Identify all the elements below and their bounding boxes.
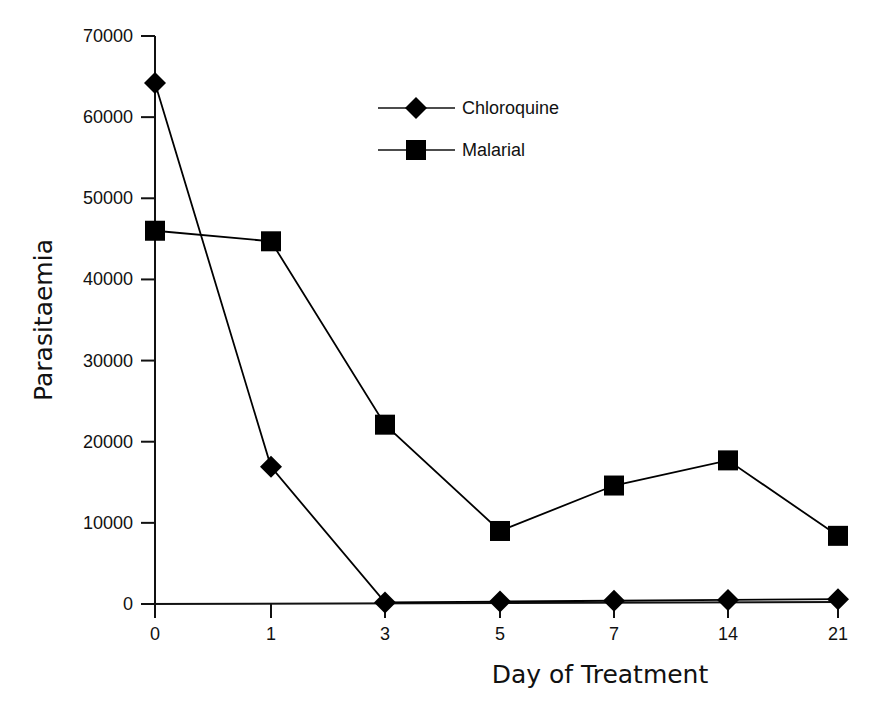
legend-label: Chloroquine xyxy=(462,98,559,118)
x-tick-label: 21 xyxy=(828,624,848,644)
diamond-marker xyxy=(374,591,396,613)
square-marker xyxy=(261,231,281,251)
legend-label: Malarial xyxy=(462,140,525,160)
diamond-marker xyxy=(405,97,427,119)
series-malarial xyxy=(145,221,848,546)
x-tick-label: 0 xyxy=(150,624,160,644)
y-tick-label: 60000 xyxy=(83,107,133,127)
square-marker xyxy=(406,140,426,160)
diamond-marker xyxy=(717,589,739,611)
square-marker xyxy=(490,521,510,541)
diamond-marker xyxy=(489,591,511,613)
square-marker xyxy=(375,415,395,435)
legend: ChloroquineMalarial xyxy=(378,97,559,160)
x-axis-title: Day of Treatment xyxy=(492,660,709,689)
diamond-marker xyxy=(827,588,849,610)
legend-item-chloroquine: Chloroquine xyxy=(378,97,559,119)
square-marker xyxy=(718,450,738,470)
y-tick-label: 0 xyxy=(123,594,133,614)
y-tick-label: 30000 xyxy=(83,351,133,371)
x-tick-label: 3 xyxy=(380,624,390,644)
x-tick-label: 5 xyxy=(495,624,505,644)
legend-item-malarial: Malarial xyxy=(378,140,525,160)
line-chart: 010000200003000040000500006000070000 013… xyxy=(0,0,879,722)
diamond-marker xyxy=(603,590,625,612)
square-marker xyxy=(828,526,848,546)
y-axis-title: Parasitaemia xyxy=(29,239,58,401)
y-tick-label: 10000 xyxy=(83,513,133,533)
square-marker xyxy=(145,221,165,241)
x-tick-label: 14 xyxy=(718,624,738,644)
x-axis: 013571421 xyxy=(141,602,848,644)
y-tick-label: 40000 xyxy=(83,269,133,289)
y-tick-label: 50000 xyxy=(83,188,133,208)
x-tick-label: 7 xyxy=(609,624,619,644)
diamond-marker xyxy=(260,456,282,478)
y-tick-label: 70000 xyxy=(83,26,133,46)
y-tick-label: 20000 xyxy=(83,432,133,452)
x-tick-label: 1 xyxy=(266,624,276,644)
y-axis: 010000200003000040000500006000070000 xyxy=(83,26,155,618)
diamond-marker xyxy=(144,72,166,94)
square-marker xyxy=(604,476,624,496)
